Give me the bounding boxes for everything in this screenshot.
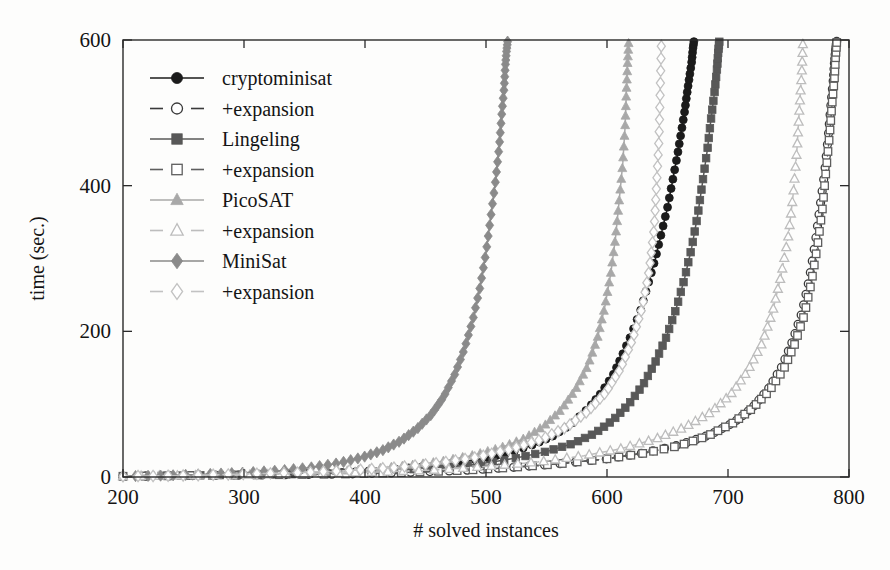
filled-triangle-marker bbox=[619, 142, 628, 150]
open-square-marker bbox=[671, 443, 678, 450]
filled-triangle-marker bbox=[608, 258, 617, 266]
x-tick-label-800: 800 bbox=[833, 485, 865, 509]
filled-diamond-marker bbox=[479, 262, 487, 273]
y-tick-label-200: 200 bbox=[80, 319, 112, 343]
filled-triangle-marker bbox=[622, 75, 631, 83]
open-triangle-marker bbox=[791, 162, 800, 170]
filled-circle-marker bbox=[679, 116, 687, 124]
open-square-marker bbox=[814, 239, 821, 246]
open-triangle-marker bbox=[788, 197, 797, 205]
open-square-marker bbox=[819, 205, 826, 212]
open-square-marker bbox=[698, 434, 705, 441]
filled-triangle-marker bbox=[621, 101, 630, 109]
filled-square-marker bbox=[680, 278, 687, 285]
open-square-marker bbox=[627, 451, 634, 458]
filled-diamond-marker bbox=[361, 451, 369, 462]
open-square-marker bbox=[791, 341, 798, 348]
open-diamond-marker bbox=[656, 90, 664, 101]
filled-square-marker bbox=[677, 288, 684, 295]
y-tick-label-600: 600 bbox=[80, 28, 112, 52]
filled-triangle-marker bbox=[619, 153, 628, 161]
open-triangle-marker bbox=[780, 253, 789, 261]
series-picosat bbox=[119, 38, 634, 479]
filled-diamond-marker bbox=[491, 177, 499, 188]
filled-square-marker bbox=[705, 134, 712, 141]
filled-triangle-marker bbox=[612, 227, 621, 235]
filled-circle-marker bbox=[667, 185, 675, 193]
filled-triangle-marker bbox=[613, 216, 622, 224]
filled-square-marker bbox=[687, 248, 694, 255]
open-square-marker bbox=[172, 164, 182, 174]
filled-square-marker bbox=[567, 441, 574, 448]
filled-triangle-marker bbox=[623, 67, 632, 75]
filled-square-marker bbox=[531, 450, 538, 457]
open-square-marker bbox=[689, 437, 696, 444]
filled-triangle-marker bbox=[614, 206, 623, 214]
filled-circle-marker bbox=[669, 175, 677, 183]
filled-square-marker bbox=[691, 228, 698, 235]
filled-triangle-marker bbox=[609, 247, 618, 255]
open-square-marker bbox=[802, 304, 809, 311]
open-triangle-marker bbox=[796, 86, 805, 94]
open-square-marker bbox=[820, 194, 827, 201]
legend-item-6[interactable]: MiniSat bbox=[150, 250, 287, 272]
filled-triangle-marker bbox=[599, 306, 608, 314]
open-square-marker bbox=[811, 261, 818, 268]
filled-square-marker bbox=[581, 434, 588, 441]
legend-label: PicoSAT bbox=[222, 189, 293, 211]
filled-square-marker bbox=[558, 443, 565, 450]
open-diamond-marker bbox=[655, 138, 663, 149]
legend-item-3[interactable]: +expansion bbox=[150, 159, 314, 182]
filled-square-marker bbox=[696, 196, 703, 203]
filled-diamond-marker bbox=[490, 187, 498, 198]
legend-item-5[interactable]: +expansion bbox=[150, 220, 314, 243]
x-tick-label-400: 400 bbox=[349, 485, 381, 509]
open-triangle-marker bbox=[798, 57, 807, 65]
series-markers bbox=[119, 38, 723, 480]
legend-item-2[interactable]: Lingeling bbox=[150, 128, 300, 151]
open-triangle-marker bbox=[782, 242, 791, 250]
open-triangle-marker bbox=[773, 284, 782, 292]
open-square-marker bbox=[830, 82, 837, 89]
filled-square-marker bbox=[708, 106, 715, 113]
filled-square-marker bbox=[710, 97, 717, 104]
filled-circle-marker bbox=[664, 203, 672, 211]
open-triangle-marker bbox=[795, 106, 804, 114]
legend-item-4[interactable]: PicoSAT bbox=[150, 189, 293, 211]
filled-triangle-marker bbox=[585, 356, 594, 364]
filled-diamond-marker bbox=[474, 292, 482, 303]
legend-item-0[interactable]: cryptominisat bbox=[150, 67, 332, 90]
open-diamond-marker bbox=[654, 161, 662, 172]
filled-diamond-marker bbox=[367, 449, 375, 460]
filled-square-marker bbox=[712, 73, 719, 80]
filled-diamond-marker bbox=[492, 166, 500, 177]
legend-item-1[interactable]: +expansion bbox=[150, 98, 314, 121]
filled-triangle-marker bbox=[582, 363, 591, 371]
open-square-marker bbox=[809, 272, 816, 279]
open-triangle-marker bbox=[574, 452, 583, 460]
filled-square-marker bbox=[702, 154, 709, 161]
series-cryptominisat bbox=[119, 38, 698, 481]
open-diamond-marker bbox=[650, 226, 658, 237]
legend-item-7[interactable]: +expansion bbox=[150, 281, 314, 304]
filled-diamond-marker bbox=[495, 146, 503, 157]
open-triangle-marker bbox=[778, 264, 787, 272]
filled-triangle-marker bbox=[595, 323, 604, 331]
open-square-marker bbox=[812, 250, 819, 257]
filled-triangle-marker bbox=[606, 268, 615, 276]
filled-triangle-marker bbox=[588, 348, 597, 356]
open-triangle-marker bbox=[763, 322, 772, 330]
open-diamond-marker bbox=[149, 470, 157, 481]
filled-triangle-marker bbox=[617, 174, 626, 182]
filled-diamond-marker bbox=[486, 220, 494, 231]
x-tick-label-300: 300 bbox=[228, 485, 260, 509]
filled-circle-marker bbox=[661, 213, 669, 221]
open-diamond-marker bbox=[655, 114, 663, 125]
filled-square-marker bbox=[662, 334, 669, 341]
series-line bbox=[123, 40, 629, 476]
filled-square-marker bbox=[689, 238, 696, 245]
open-triangle-marker bbox=[776, 274, 785, 282]
open-triangle-marker bbox=[771, 294, 780, 302]
filled-square-marker bbox=[674, 298, 681, 305]
open-triangle-marker bbox=[766, 313, 775, 321]
